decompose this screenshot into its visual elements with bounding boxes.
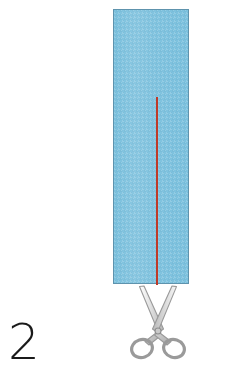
cut-line: [156, 97, 158, 285]
step-number: 2: [8, 316, 50, 368]
fabric-sheen: [114, 10, 188, 283]
fabric-texture: [114, 10, 188, 283]
fabric-strip: [113, 9, 189, 284]
scissors-icon: [128, 284, 188, 360]
scissors-pivot: [155, 328, 161, 334]
illustration-canvas: 2: [0, 0, 252, 373]
scissors-blade-right: [153, 286, 177, 333]
